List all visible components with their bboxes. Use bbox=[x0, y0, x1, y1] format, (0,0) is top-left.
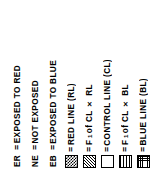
legend-item-f1-cl-bl: F1 of CL × BL = bbox=[118, 84, 133, 168]
legend-item-control-line: CONTROL LINE (CL) = bbox=[100, 59, 115, 169]
legend-equals-er: = bbox=[10, 145, 25, 150]
legend-item-eb: EXPOSED TO BLUE = EB bbox=[46, 60, 61, 168]
legend-swatch-crosshatch-grid-icon bbox=[137, 155, 150, 168]
legend-item-f1-cl-rl: F1 of CL × RL = bbox=[82, 84, 97, 168]
legend-key-ne: NE bbox=[28, 153, 43, 168]
legend-equals-blue-line: = bbox=[136, 147, 151, 152]
legend-label-f1-cl-rl-prefix: F bbox=[85, 140, 94, 145]
legend-label-f1-cl-bl-suffix: of CL × BL bbox=[121, 84, 130, 136]
legend-equals-f1-cl-bl: = bbox=[118, 147, 133, 152]
legend-label-eb: EXPOSED TO BLUE bbox=[46, 60, 61, 144]
legend-label-f1-cl-rl-sub: 1 bbox=[87, 135, 93, 139]
legend-swatch-checkerboard-icon bbox=[65, 155, 78, 168]
legend-item-er: EXPOSED TO RED = ER bbox=[10, 65, 25, 168]
legend-equals-red-line: = bbox=[64, 147, 79, 152]
legend-equals-control-line: = bbox=[100, 147, 115, 152]
legend-item-red-line: RED LINE (RL) = bbox=[64, 83, 79, 168]
legend-label-control-line: CONTROL LINE (CL) bbox=[100, 59, 115, 146]
legend-key-er: ER bbox=[10, 153, 25, 168]
legend-label-f1-cl-rl: F1 of CL × RL bbox=[82, 84, 98, 145]
legend-swatch-diagonal-hatch-icon bbox=[83, 155, 96, 168]
legend-label-f1-cl-rl-suffix: of CL × RL bbox=[85, 84, 94, 136]
legend-label-red-line: RED LINE (RL) bbox=[64, 83, 79, 145]
legend-label-blue-line: BLUE LINE (BL) bbox=[136, 78, 151, 145]
legend-swatch-vertical-lines-icon bbox=[119, 155, 132, 168]
legend-item-blue-line: BLUE LINE (BL) = bbox=[136, 78, 151, 168]
legend-equals-f1-cl-rl: = bbox=[82, 147, 97, 152]
legend-equals-eb: = bbox=[46, 145, 61, 150]
legend-label-ne: NOT EXPOSED bbox=[28, 80, 43, 144]
legend-swatch-blank-white-icon bbox=[101, 155, 114, 168]
legend-equals-ne: = bbox=[28, 145, 43, 150]
legend-figure: EXPOSED TO RED = ER NOT EXPOSED = NE EXP… bbox=[0, 0, 161, 192]
legend-entry-list: EXPOSED TO RED = ER NOT EXPOSED = NE EXP… bbox=[10, 59, 151, 169]
legend-label-f1-cl-bl: F1 of CL × BL bbox=[118, 84, 134, 145]
legend-label-f1-cl-bl-prefix: F bbox=[121, 140, 130, 145]
legend-label-er: EXPOSED TO RED bbox=[10, 65, 25, 143]
legend-item-ne: NOT EXPOSED = NE bbox=[28, 80, 43, 168]
legend-label-f1-cl-bl-sub: 1 bbox=[123, 135, 129, 139]
legend-key-eb: EB bbox=[46, 153, 61, 168]
